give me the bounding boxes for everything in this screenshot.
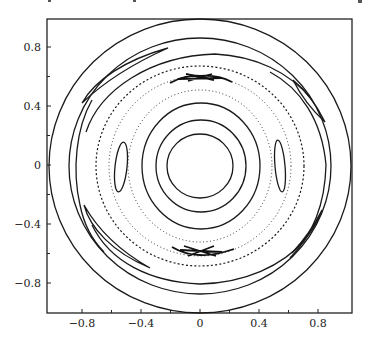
x-tick-label: 0.8 <box>309 317 327 330</box>
y-tick-label: 0.4 <box>24 100 42 113</box>
island-left <box>112 142 129 193</box>
y-tick-labels: 0.8 0.4 0 −0.4 −0.8 <box>14 41 41 290</box>
island-bottom-right <box>292 210 322 253</box>
y-tick-label: −0.8 <box>14 277 41 290</box>
x-tick-labels: −0.8 −0.4 0 0.4 0.8 <box>69 317 327 330</box>
y-tick-label: −0.4 <box>14 218 41 231</box>
separatrix-inner <box>128 90 272 242</box>
x-point-top <box>170 74 232 83</box>
poincare-section-chart: 0.8 0.4 0 −0.4 −0.8 −0.8 −0.4 0 0.4 0.8 <box>0 0 370 345</box>
y-tick-label: 0.8 <box>24 41 42 54</box>
cropped-caption-fragments <box>48 0 362 3</box>
y-tick-label: 0 <box>34 159 41 172</box>
x-tick-label: −0.8 <box>69 317 96 330</box>
boundary-circle <box>49 19 351 313</box>
island-right <box>273 140 287 193</box>
x-point-bottom <box>172 246 234 256</box>
x-tick-label: 0.4 <box>250 317 268 330</box>
phase-curves <box>49 19 351 313</box>
inner-invariant-circle <box>167 134 233 198</box>
island-bottom-left <box>84 205 150 268</box>
third-invariant-circle <box>142 103 260 229</box>
x-tick-label: −0.4 <box>128 317 155 330</box>
x-tick-label: 0 <box>197 317 204 330</box>
